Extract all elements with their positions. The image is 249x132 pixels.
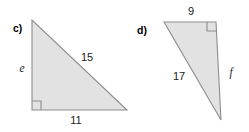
side-label-c-hypotenuse: 15 bbox=[81, 51, 93, 63]
part-label-d: d) bbox=[137, 24, 147, 36]
side-label-d-hypotenuse: 17 bbox=[173, 70, 185, 82]
triangle-c-group: c) e 11 15 bbox=[13, 20, 127, 126]
side-label-d-top-leg: 9 bbox=[188, 5, 194, 17]
figure-canvas: c) e 11 15 d) 9 f 17 bbox=[0, 0, 249, 132]
geometry-figure: c) e 11 15 d) 9 f 17 bbox=[0, 0, 249, 132]
part-label-c: c) bbox=[13, 22, 22, 34]
triangle-d-group: d) 9 f 17 bbox=[137, 5, 234, 120]
side-label-c-horizontal-leg: 11 bbox=[70, 114, 81, 126]
side-label-d-vertical-leg: f bbox=[229, 66, 234, 79]
side-label-c-vertical-leg: e bbox=[19, 62, 24, 74]
triangle-c-shape bbox=[32, 20, 127, 110]
